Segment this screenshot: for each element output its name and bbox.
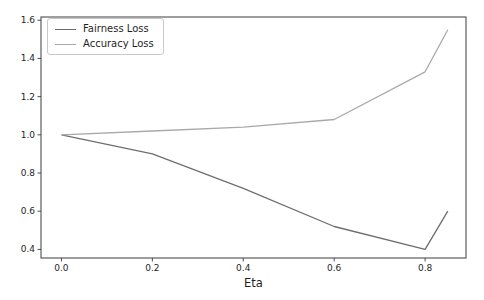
legend-label-fairness-loss: Fairness Loss xyxy=(83,23,149,35)
legend: Fairness Loss Accuracy Loss xyxy=(47,18,164,55)
x-tick-label: 0.4 xyxy=(236,263,251,273)
y-tick-label: 0.8 xyxy=(21,168,36,178)
y-tick-label: 0.4 xyxy=(21,244,36,254)
y-tick-label: 1.4 xyxy=(21,53,36,63)
x-tick-label: 0.2 xyxy=(145,263,159,273)
legend-item-fairness-loss: Fairness Loss xyxy=(55,23,154,35)
legend-label-accuracy-loss: Accuracy Loss xyxy=(83,38,154,50)
x-tick-label: 0.0 xyxy=(54,263,69,273)
y-tick-label: 1.2 xyxy=(21,92,35,102)
x-tick-label: 0.6 xyxy=(327,263,342,273)
y-tick-label: 1.6 xyxy=(21,15,36,25)
figure: 0.00.20.40.60.80.40.60.81.01.21.41.6 Fai… xyxy=(0,0,484,300)
x-tick-label: 0.8 xyxy=(418,263,433,273)
fairness-loss-line-sample xyxy=(55,29,76,30)
x-axis-title: Eta xyxy=(41,276,466,290)
y-tick-label: 0.6 xyxy=(21,206,36,216)
legend-item-accuracy-loss: Accuracy Loss xyxy=(55,38,154,50)
accuracy-loss-line-sample xyxy=(55,44,76,45)
y-tick-label: 1.0 xyxy=(21,130,36,140)
series-line-fairness-loss xyxy=(62,135,448,250)
